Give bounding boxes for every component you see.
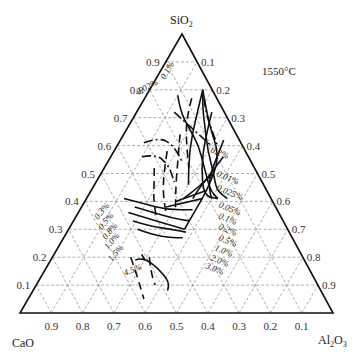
right-axis-tick: 0.4 bbox=[246, 140, 260, 152]
bottom-axis-tick: 0.4 bbox=[201, 320, 215, 332]
curve-dashdot bbox=[142, 156, 174, 182]
bottom-axis-tick: 0.5 bbox=[170, 320, 184, 332]
left-axis-tick: 0.5 bbox=[81, 168, 95, 180]
right-axis-tick: 0.2 bbox=[216, 84, 230, 96]
right-axis-tick: 0.8 bbox=[307, 251, 321, 263]
bottom-axis-tick: 0.9 bbox=[44, 320, 58, 332]
left-axis-tick: 0.6 bbox=[97, 140, 111, 152]
right-axis-tick: 0.9 bbox=[322, 279, 336, 291]
grid-line-cao bbox=[36, 285, 51, 313]
grid-lines bbox=[36, 62, 318, 313]
ternary-diagram: 0.10.20.30.40.50.60.70.80.90.10.20.30.40… bbox=[0, 0, 363, 364]
curve-solid bbox=[166, 199, 202, 207]
grid-line-al2o3 bbox=[302, 285, 318, 313]
bottom-axis-tick: 0.8 bbox=[76, 320, 90, 332]
bottom-axis-tick: 0.6 bbox=[138, 320, 152, 332]
vertex-label-al2o3: Al2O3 bbox=[318, 333, 347, 349]
right-axis-tick: 0.5 bbox=[262, 168, 276, 180]
curve-solid bbox=[124, 199, 193, 210]
vertex-label-cao: CaO bbox=[12, 336, 34, 350]
right-axis-tick: 0.7 bbox=[292, 223, 306, 235]
bottom-axis-tick: 0.2 bbox=[264, 320, 278, 332]
left-axis-tick: 0.7 bbox=[114, 112, 128, 124]
vertex-label-sio2: SiO2 bbox=[170, 13, 193, 29]
curve-label: 0.2% bbox=[209, 145, 230, 161]
grid-line-cao bbox=[166, 62, 302, 313]
curve-label: 4.5% bbox=[122, 262, 143, 278]
left-axis-tick: 0.9 bbox=[146, 56, 160, 68]
curve-dashed bbox=[154, 168, 157, 218]
right-axis-tick: 0.3 bbox=[231, 112, 245, 124]
right-axis-tick: 0.6 bbox=[277, 195, 291, 207]
left-axis-tick: 0.3 bbox=[49, 223, 63, 235]
bottom-axis-tick: 0.3 bbox=[232, 320, 246, 332]
temperature-label: 1550°C bbox=[262, 65, 296, 77]
curve-label: 0.025% bbox=[215, 183, 244, 203]
left-axis-tick: 0.1 bbox=[16, 279, 30, 291]
grid-line-al2o3 bbox=[114, 118, 227, 313]
bottom-axis-tick: 0.7 bbox=[107, 320, 121, 332]
left-axis-tick: 0.4 bbox=[65, 195, 79, 207]
left-axis-tick: 0.2 bbox=[33, 251, 47, 263]
right-axis-tick: 0.1 bbox=[201, 56, 215, 68]
bottom-axis-tick: 0.1 bbox=[295, 320, 309, 332]
curve-label: 0.1% bbox=[158, 60, 176, 81]
